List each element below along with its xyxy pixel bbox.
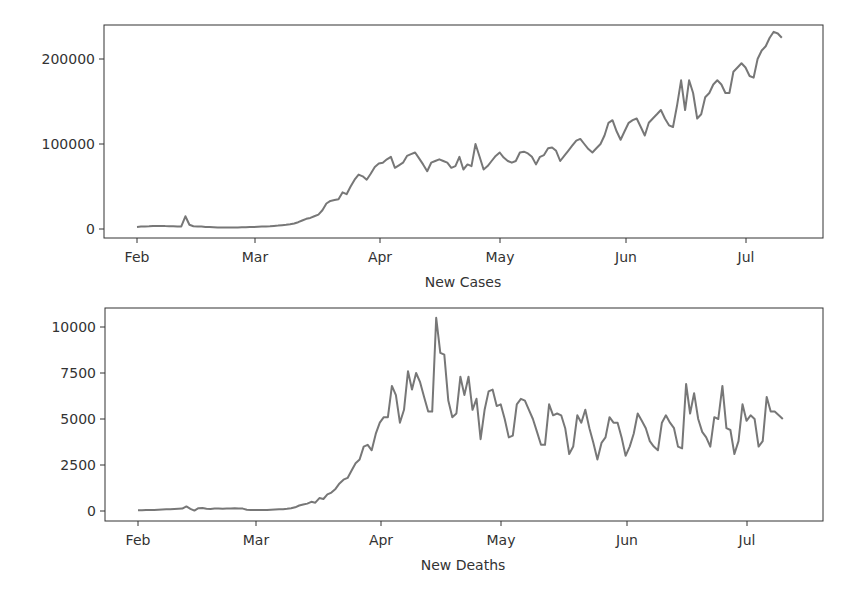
- x-tick-label: Feb: [125, 249, 150, 265]
- y-tick-label: 0: [86, 221, 95, 237]
- y-tick-label: 2500: [60, 457, 96, 473]
- y-tick-label: 5000: [60, 411, 96, 427]
- deaths-x-axis-title: New Deaths: [421, 557, 506, 573]
- y-tick-label: 200000: [42, 51, 95, 67]
- x-tick-label: Jun: [615, 532, 638, 548]
- deaths-chart: 0 2500 5000 7500 10000 Feb Mar Apr May J…: [51, 308, 823, 573]
- x-tick-label: Feb: [126, 532, 151, 548]
- deaths-y-axis: 0 2500 5000 7500 10000: [51, 319, 105, 519]
- x-tick-label: Jun: [614, 249, 637, 265]
- cases-y-axis: 0 100000 200000: [42, 51, 104, 237]
- y-tick-label: 100000: [42, 136, 95, 152]
- x-tick-label: Jul: [738, 532, 756, 548]
- figure: 0 100000 200000 Feb Mar Apr May Jun Jul …: [0, 0, 844, 601]
- y-tick-label: 10000: [51, 319, 96, 335]
- x-tick-label: Apr: [368, 249, 392, 265]
- x-tick-label: Mar: [243, 532, 270, 548]
- deaths-x-axis: Feb Mar Apr May Jun Jul: [126, 521, 756, 548]
- y-tick-label: 0: [87, 503, 96, 519]
- deaths-plot-area: [105, 308, 823, 521]
- x-tick-label: Mar: [242, 249, 269, 265]
- x-tick-label: May: [486, 249, 515, 265]
- cases-plot-area: [104, 25, 823, 238]
- cases-chart: 0 100000 200000 Feb Mar Apr May Jun Jul …: [42, 25, 823, 290]
- cases-x-axis-title: New Cases: [425, 274, 502, 290]
- x-tick-label: May: [487, 532, 516, 548]
- x-tick-label: Jul: [737, 249, 755, 265]
- x-tick-label: Apr: [369, 532, 393, 548]
- cases-x-axis: Feb Mar Apr May Jun Jul: [125, 238, 755, 265]
- y-tick-label: 7500: [60, 365, 96, 381]
